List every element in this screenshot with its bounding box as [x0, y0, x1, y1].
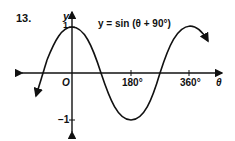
origin-label: O: [62, 77, 70, 88]
x-axis-label: θ: [216, 77, 222, 88]
equation-label: y = sin (θ + 90°): [98, 18, 171, 29]
y-tick-1: 1: [63, 20, 68, 30]
y-tick-neg1: −1: [58, 114, 69, 125]
x-tick-360: 360°: [180, 77, 201, 88]
problem-number: 13.: [16, 12, 31, 24]
x-tick-180: 180°: [122, 77, 143, 88]
